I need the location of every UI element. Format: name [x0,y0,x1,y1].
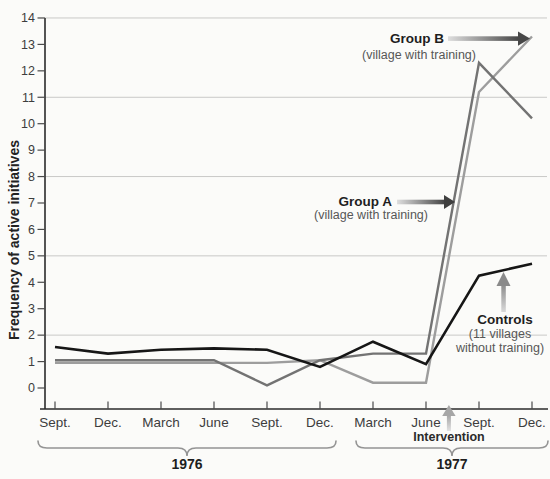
group-a-sublabel: (village with training) [314,208,428,222]
data-series-layer [55,37,532,386]
controls-up-arrow-icon [497,272,511,312]
x-tick-label: Dec. [94,415,122,430]
line-chart-canvas: 01234567891011121314Sept.Dec.MarchJuneSe… [0,0,550,479]
x-tick-label: March [354,415,392,430]
series-line-group-a [55,63,532,386]
y-tick-label: 10 [21,117,35,131]
x-tick-label: June [199,415,228,430]
series-line-group-b [55,37,532,383]
x-tick-label: June [411,415,440,430]
controls-sublabel-line1: (11 villages [469,327,531,341]
year-braces-layer: 19761977 [38,441,548,472]
x-tick-label: Sept. [463,415,495,430]
y-tick-label: 5 [28,249,35,263]
x-tick-label: March [142,415,180,430]
group-b-sublabel: (village with training) [362,48,476,62]
y-tick-label: 4 [28,276,35,290]
x-tick-label: Sept. [39,415,71,430]
y-tick-label: 1 [28,355,35,369]
y-tick-label: 2 [28,328,35,342]
controls-sublabel-line2: without training) [456,341,544,355]
group-a-label: Group A [339,194,393,209]
y-tick-label: 3 [28,302,35,316]
y-tick-label: 6 [28,223,35,237]
chart-figure: 01234567891011121314Sept.Dec.MarchJuneSe… [0,0,550,479]
y-axis-title: Frequency of active initiatives [6,130,22,350]
group-b-label: Group B [390,31,444,46]
annotation-arrows-layer [397,32,530,432]
y-tick-label: 7 [28,196,35,210]
y-tick-label: 14 [21,11,35,25]
x-tick-label: Sept. [251,415,283,430]
y-tick-label: 12 [21,64,35,78]
x-tick-label: Dec. [518,415,546,430]
year-label: 1976 [171,456,202,472]
axes-layer: 01234567891011121314Sept.Dec.MarchJuneSe… [21,11,548,430]
y-tick-label: 8 [28,170,35,184]
year-brace [38,441,336,456]
y-tick-label: 0 [28,381,35,395]
x-tick-label: Dec. [306,415,334,430]
y-tick-label: 11 [22,91,35,105]
y-tick-label: 13 [21,38,35,52]
controls-label: Controls [477,312,533,327]
group-a-arrow-icon [397,195,455,209]
group-b-arrow-icon [448,32,530,46]
year-label: 1977 [436,456,467,472]
intervention-label: Intervention [413,430,485,444]
y-tick-label: 9 [28,143,35,157]
